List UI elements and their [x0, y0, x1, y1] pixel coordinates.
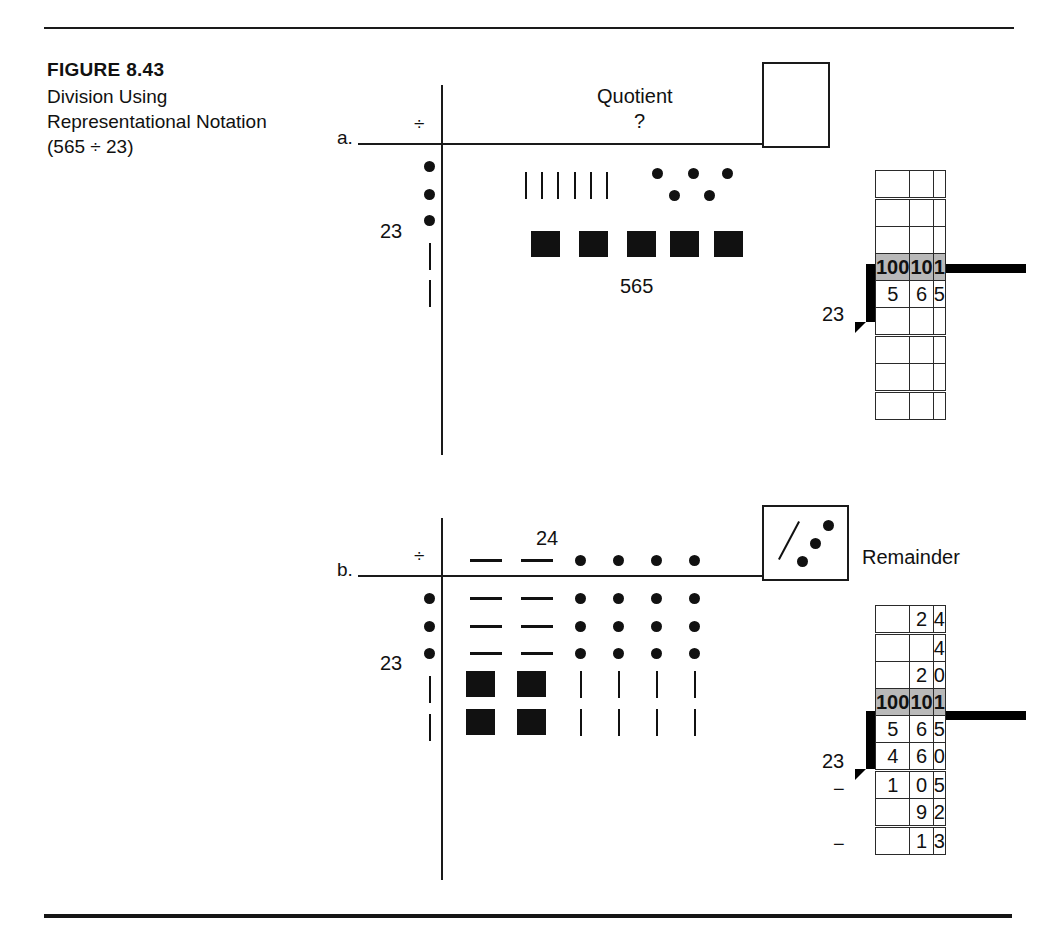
- table-b-row: 1 0 5: [876, 771, 946, 799]
- table-b-row: 1 3: [876, 827, 946, 855]
- part-b-array-one-tally: [656, 671, 658, 698]
- table-b-cell: [876, 606, 910, 634]
- figure-number: FIGURE 8.43: [47, 58, 297, 82]
- part-b-quotient-one-dot: [689, 555, 700, 566]
- table-b-cell: 6: [910, 743, 933, 771]
- table-b-minus-sign-2: −: [833, 833, 845, 856]
- table-b-cell: [910, 634, 933, 662]
- table-b-cell: [876, 827, 910, 855]
- part-b-quotient-label: 24: [536, 527, 558, 550]
- figure-title-line-2: Representational Notation: [47, 109, 297, 134]
- table-b-row: 4: [876, 634, 946, 662]
- table-b-header-tens: 10: [910, 689, 933, 716]
- table-b-row: 4 6 0: [876, 743, 946, 771]
- table-b-cell: 0: [933, 743, 945, 771]
- table-b-cell: 1: [910, 827, 933, 855]
- part-b-remainder-box[interactable]: [762, 505, 849, 581]
- figure-caption: FIGURE 8.43 Division Using Representatio…: [47, 58, 297, 159]
- table-b-side-label: 23: [822, 750, 844, 773]
- part-a-horizontal-rule: [358, 143, 820, 145]
- table-b-cell: 2: [933, 799, 945, 827]
- part-b-divisor-ten-dot: [424, 621, 435, 632]
- part-b-array-one-tally: [580, 709, 582, 736]
- part-b-quotient-one-dot: [613, 555, 624, 566]
- table-b-header-hundreds: 100: [876, 689, 910, 716]
- part-b-array-ten-dot: [613, 593, 624, 604]
- part-b-array-ten-dot: [651, 648, 662, 659]
- part-a-dividend-ten-dot: [722, 168, 733, 179]
- part-a-label: a.: [337, 127, 353, 149]
- table-b-cell: 5: [876, 716, 910, 743]
- part-a-dividend-one-tally: [557, 172, 559, 199]
- part-a-dividend-ten-dot: [652, 168, 663, 179]
- part-a-dividend-hundred-square: [714, 231, 743, 257]
- table-b-row: 2 0: [876, 662, 946, 689]
- part-a-dividend-ten-dot: [704, 190, 715, 201]
- part-a-divisor-label: 23: [380, 220, 402, 243]
- part-b-quotient-ten-dash: [521, 559, 553, 562]
- part-a-divisor-ten-dot: [424, 161, 435, 172]
- table-b: 2 4 4 2 0 100 10 1 5 6 5: [875, 605, 946, 855]
- table-a-row: [876, 336, 946, 364]
- part-a-divisor-ten-dot: [424, 189, 435, 200]
- table-a-cell: 5: [933, 281, 945, 308]
- part-a-quotient-box[interactable]: [762, 62, 830, 148]
- part-a-divisor-one-tally: [429, 280, 431, 307]
- table-b-cell: 0: [933, 662, 945, 689]
- part-a-dividend-one-tally: [525, 172, 527, 199]
- part-b-array-one-tally: [618, 671, 620, 698]
- part-b-remainder-one-dot: [823, 520, 834, 531]
- table-b-cell: 3: [933, 827, 945, 855]
- part-b-quotient-one-dot: [575, 555, 586, 566]
- figure-title-line-1: Division Using: [47, 84, 297, 109]
- part-b-divisor-one-tally: [429, 676, 431, 703]
- part-b-array-ten-dot: [689, 621, 700, 632]
- part-b-array-hundred-square: [517, 671, 546, 697]
- table-a-cell: 5: [876, 281, 910, 308]
- table-b-minus-sign-1: −: [833, 778, 845, 801]
- table-b-row: 9 2: [876, 799, 946, 827]
- part-a-dividend-hundred-square: [579, 231, 608, 257]
- part-b-divisor-label: 23: [380, 652, 402, 675]
- table-a-row: [876, 171, 946, 199]
- part-a-dividend-ten-dot: [669, 190, 680, 201]
- part-a-dividend-one-tally: [606, 172, 608, 199]
- part-b-divisor-ten-dot: [424, 648, 435, 659]
- part-b-array-one-tally: [694, 709, 696, 736]
- part-b-array-ten-dot: [613, 621, 624, 632]
- table-a-row: [876, 308, 946, 336]
- table-b-cell: [876, 634, 910, 662]
- part-b-array-ten-dash: [521, 597, 553, 600]
- table-a-row: 5 6 5: [876, 281, 946, 308]
- part-a-division-symbol: ÷: [414, 114, 424, 133]
- part-b-array-one-tally: [694, 671, 696, 698]
- part-b-horizontal-rule: [358, 575, 763, 577]
- table-b-cell: 4: [876, 743, 910, 771]
- part-a-dividend-hundred-square: [627, 231, 656, 257]
- part-b-array-ten-dash: [470, 652, 502, 655]
- part-b-divisor-one-tally: [429, 714, 431, 741]
- table-a-header-tens: 10: [910, 254, 933, 281]
- part-b-array-ten-dash: [521, 625, 553, 628]
- part-b-label: b.: [337, 559, 353, 581]
- part-b-array-ten-dot: [689, 648, 700, 659]
- part-b-array-one-tally: [618, 709, 620, 736]
- part-b-array-ten-dot: [651, 621, 662, 632]
- table-b-cell: [876, 662, 910, 689]
- table-a-cell: 6: [910, 281, 933, 308]
- part-b-array-ten-dot: [575, 648, 586, 659]
- part-b-array-ten-dot: [651, 593, 662, 604]
- table-a-bracket-foot: [855, 322, 866, 333]
- table-b-cell: 9: [910, 799, 933, 827]
- part-b-remainder-one-dot: [797, 556, 808, 567]
- part-b-array-one-tally: [656, 709, 658, 736]
- part-a-dividend-one-tally: [574, 172, 576, 199]
- figure-title-line-3: (565 ÷ 23): [47, 134, 297, 159]
- table-a-header-hundreds: 100: [876, 254, 910, 281]
- part-b-array-hundred-square: [466, 709, 495, 735]
- part-a-dividend-hundred-square: [531, 231, 560, 257]
- table-b-cell: [876, 799, 910, 827]
- part-b-remainder-word: Remainder: [862, 546, 960, 569]
- part-a-dividend-one-tally: [541, 172, 543, 199]
- part-b-array-ten-dash: [470, 597, 502, 600]
